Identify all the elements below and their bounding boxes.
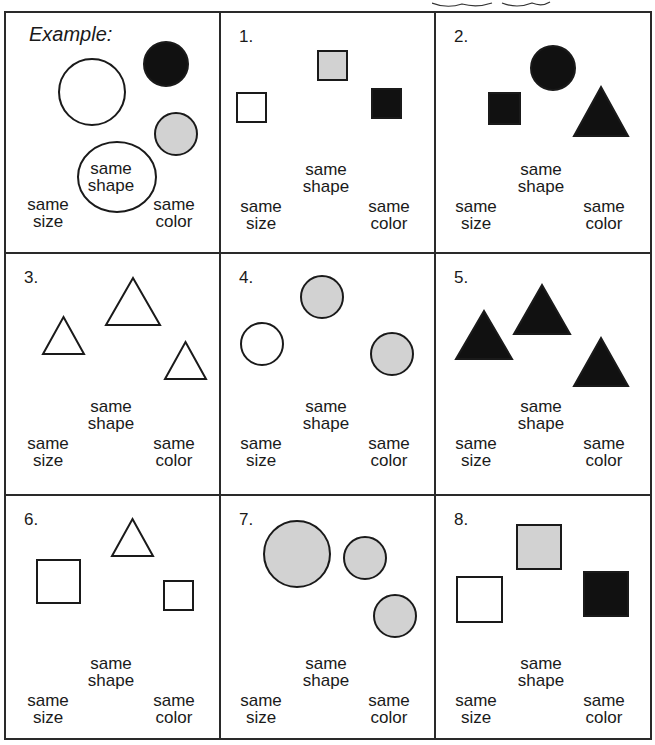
same-color-label-line-1: same (349, 198, 429, 215)
same-size-label-line-2: size (221, 709, 301, 726)
black-circle-shape (531, 46, 575, 90)
black-triangle-shape (514, 285, 570, 334)
same-shape-label-line-2: shape (286, 672, 366, 689)
white-square-shape (237, 93, 266, 122)
gray-square-shape (517, 525, 561, 569)
same-color-label-line-2: color (349, 215, 429, 232)
same-shape-label-line-1: same (501, 398, 581, 415)
same-shape-label-line-2: shape (501, 178, 581, 195)
white-circle-shape (59, 59, 125, 125)
same-shape-label-line-2: shape (71, 177, 151, 194)
same-color-label: samecolor (564, 692, 644, 726)
same-color-label-line-2: color (349, 709, 429, 726)
same-size-label-line-2: size (8, 452, 88, 469)
same-color-label: samecolor (349, 692, 429, 726)
white-square-shape (37, 560, 80, 603)
exercise-cell-6: 6.samesizesameshapesamecolor (6, 496, 219, 738)
same-size-label-line-1: same (436, 692, 516, 709)
same-shape-label: sameshape (501, 161, 581, 195)
same-size-label-line-2: size (436, 452, 516, 469)
same-shape-label: sameshape (501, 655, 581, 689)
same-shape-label: sameshape (501, 398, 581, 432)
same-color-label-line-1: same (564, 435, 644, 452)
same-size-label-line-1: same (436, 435, 516, 452)
same-color-label: samecolor (564, 198, 644, 232)
gray-circle-shape (264, 521, 330, 587)
same-shape-label: sameshape (286, 655, 366, 689)
same-size-label: samesize (436, 692, 516, 726)
same-color-label-line-1: same (349, 692, 429, 709)
same-shape-label: sameshape (71, 655, 151, 689)
exercise-cell-7: 7.samesizesameshapesamecolor (221, 496, 434, 738)
same-shape-label: sameshape (286, 398, 366, 432)
white-triangle-shape (43, 317, 84, 354)
same-color-label: samecolor (134, 435, 214, 469)
same-size-label: samesize (221, 692, 301, 726)
same-size-label: samesize (8, 196, 88, 230)
same-color-label-line-2: color (134, 709, 214, 726)
same-size-label-line-1: same (8, 196, 88, 213)
same-shape-label-line-2: shape (71, 415, 151, 432)
same-color-label-line-1: same (564, 692, 644, 709)
same-shape-label-line-1: same (286, 655, 366, 672)
same-size-label: samesize (8, 435, 88, 469)
black-triangle-shape (574, 338, 628, 386)
same-shape-label-line-2: shape (71, 672, 151, 689)
same-size-label: samesize (221, 198, 301, 232)
same-shape-label: sameshape (286, 161, 366, 195)
same-color-label: samecolor (349, 198, 429, 232)
same-shape-label-line-1: same (501, 655, 581, 672)
gray-circle-shape (344, 537, 386, 579)
gray-circle-shape (155, 113, 197, 155)
exercise-cell-8: 8.samesizesameshapesamecolor (436, 496, 650, 738)
same-size-label-line-1: same (8, 435, 88, 452)
same-size-label-line-2: size (8, 709, 88, 726)
exercise-cell-5: 5.samesizesameshapesamecolor (436, 254, 650, 494)
same-size-label: samesize (221, 435, 301, 469)
same-color-label-line-1: same (564, 198, 644, 215)
same-size-label: samesize (436, 435, 516, 469)
same-color-label-line-2: color (349, 452, 429, 469)
black-triangle-shape (574, 87, 628, 136)
same-shape-label-line-2: shape (501, 415, 581, 432)
same-shape-label-line-2: shape (286, 178, 366, 195)
same-shape-label: sameshape (71, 160, 151, 194)
same-shape-label-line-2: shape (286, 415, 366, 432)
same-size-label-line-1: same (221, 692, 301, 709)
same-shape-label-line-2: shape (501, 672, 581, 689)
example-cell: Example:samesizesameshapesamecolor (6, 13, 219, 252)
same-color-label-line-1: same (349, 435, 429, 452)
gray-square-shape (318, 51, 347, 80)
gray-circle-shape (301, 276, 343, 318)
same-size-label: samesize (8, 692, 88, 726)
exercise-cell-4: 4.samesizesameshapesamecolor (221, 254, 434, 494)
same-size-label-line-1: same (221, 435, 301, 452)
same-color-label-line-2: color (564, 452, 644, 469)
black-triangle-shape (456, 311, 512, 359)
same-shape-label: sameshape (71, 398, 151, 432)
same-color-label: samecolor (349, 435, 429, 469)
gray-circle-shape (371, 333, 413, 375)
same-color-label-line-2: color (564, 709, 644, 726)
white-triangle-shape (165, 342, 206, 379)
same-size-label-line-1: same (436, 198, 516, 215)
same-shape-label-line-1: same (71, 655, 151, 672)
white-square-shape (457, 577, 502, 622)
white-square-shape (164, 581, 193, 610)
gray-circle-shape (374, 595, 416, 637)
exercise-cell-2: 2.samesizesameshapesamecolor (436, 13, 650, 252)
exercise-cell-3: 3.samesizesameshapesamecolor (6, 254, 219, 494)
same-size-label-line-2: size (436, 709, 516, 726)
same-color-label-line-1: same (134, 692, 214, 709)
black-circle-shape (144, 42, 188, 86)
same-color-label: samecolor (134, 196, 214, 230)
same-color-label-line-1: same (134, 435, 214, 452)
same-size-label-line-2: size (8, 213, 88, 230)
same-color-label: samecolor (564, 435, 644, 469)
same-size-label-line-1: same (221, 198, 301, 215)
black-square-shape (584, 572, 628, 616)
same-size-label-line-2: size (221, 452, 301, 469)
white-triangle-shape (112, 519, 153, 556)
same-color-label-line-2: color (134, 452, 214, 469)
same-shape-label-line-1: same (286, 161, 366, 178)
